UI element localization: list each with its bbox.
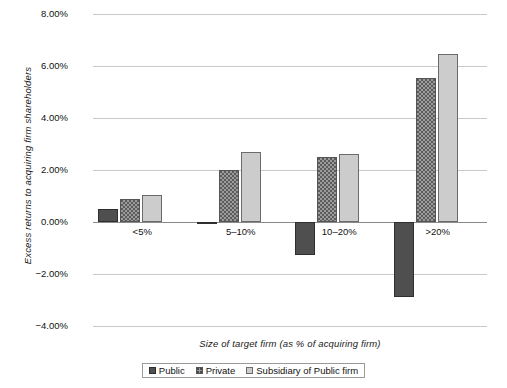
bar [98, 209, 118, 222]
bar [241, 152, 261, 222]
bar [416, 78, 436, 222]
y-axis-tick-label: −2.00% [0, 268, 68, 279]
legend-item[interactable]: Subsidiary of Public firm [246, 365, 358, 376]
bar [142, 195, 162, 222]
x-axis-category-label: 5–10% [192, 226, 291, 237]
plot-area: 8.00%6.00%4.00%2.00%0.00%−2.00%−4.00% [93, 14, 487, 326]
legend: PublicPrivateSubsidiary of Public firm [0, 363, 507, 378]
x-axis-category-label: <5% [93, 226, 192, 237]
gridline [93, 14, 487, 15]
x-axis-category-label: 10–20% [290, 226, 389, 237]
gridline [93, 274, 487, 275]
bar [317, 157, 337, 222]
x-axis-title: Size of target firm (as % of acquiring f… [93, 338, 487, 349]
x-axis-category-labels: <5%5–10%10–20%>20% [93, 226, 487, 240]
legend-swatch-icon [246, 367, 253, 374]
bar [219, 170, 239, 222]
y-axis-tick-label: 6.00% [0, 60, 68, 71]
zero-axis-line [93, 222, 487, 223]
legend-label: Private [206, 365, 236, 376]
y-axis-tick-label: 2.00% [0, 164, 68, 175]
y-axis-tick-label: 4.00% [0, 112, 68, 123]
gridline [93, 66, 487, 67]
bar [120, 199, 140, 222]
bar [197, 222, 217, 224]
legend-item[interactable]: Public [149, 365, 185, 376]
bar [438, 54, 458, 222]
gridline [93, 326, 487, 327]
y-axis-tick-label: −4.00% [0, 320, 68, 331]
legend-swatch-icon [149, 367, 156, 374]
legend-label: Public [159, 365, 185, 376]
legend-item[interactable]: Private [196, 365, 236, 376]
legend-box: PublicPrivateSubsidiary of Public firm [142, 363, 365, 378]
legend-swatch-icon [196, 367, 203, 374]
legend-label: Subsidiary of Public firm [256, 365, 358, 376]
chart-container: Excess returns to acquiring firm shareho… [0, 0, 507, 388]
y-axis-tick-label: 8.00% [0, 8, 68, 19]
y-axis-tick-label: 0.00% [0, 216, 68, 227]
bar [339, 154, 359, 222]
x-axis-category-label: >20% [389, 226, 488, 237]
